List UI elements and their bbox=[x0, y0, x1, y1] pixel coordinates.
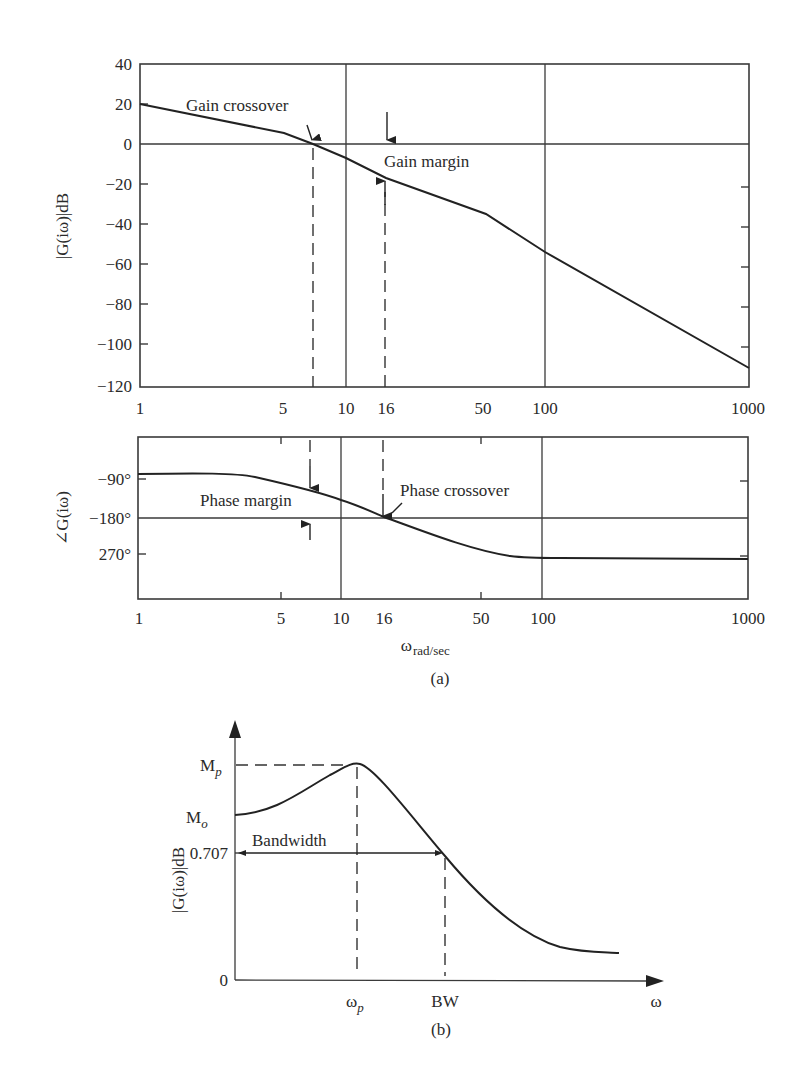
phase-xtick-50: 50 bbox=[473, 609, 490, 628]
mo-label: Mo bbox=[186, 808, 208, 831]
bw-label: BW bbox=[431, 992, 459, 1011]
gain-margin-label: Gain margin bbox=[384, 152, 470, 171]
gain-ytick-m60: −60 bbox=[105, 255, 132, 274]
gain-ytick-m40: −40 bbox=[105, 215, 132, 234]
phase-ytick-270: 270° bbox=[99, 545, 131, 564]
phase-xlabel: ω bbox=[401, 636, 412, 655]
phase-plot: −90° −180° 270° ∠G(iω) 1 5 10 16 50 100 … bbox=[53, 437, 765, 688]
phase-ytick-m90: −90° bbox=[98, 470, 131, 489]
gain-crossover-arrow-icon bbox=[307, 125, 312, 140]
gain-ytick-m80: −80 bbox=[105, 295, 132, 314]
gain-ytick-m20: −20 bbox=[105, 175, 132, 194]
gain-xtick-10: 10 bbox=[338, 399, 355, 418]
phase-xtick-5: 5 bbox=[277, 609, 286, 628]
gain-ylabel: |G(iω)|dB bbox=[53, 193, 72, 259]
gain-ytick-m120: −120 bbox=[97, 377, 132, 396]
gain-ytick-0: 0 bbox=[124, 135, 133, 154]
phase-xtick-10: 10 bbox=[333, 609, 350, 628]
gain-xtick-1000: 1000 bbox=[731, 399, 765, 418]
phase-crossover-label: Phase crossover bbox=[400, 481, 509, 500]
response-plot: Mp Mo 0.707 0 Bandwidth |G(iω)|dB ωp BW … bbox=[169, 720, 664, 1039]
response-ylabel: |G(iω)|dB bbox=[169, 847, 188, 913]
phase-ylabel: ∠G(iω) bbox=[53, 491, 72, 545]
phase-margin-label: Phase margin bbox=[200, 491, 292, 510]
gain-plot: 40 20 0 −20 −40 −60 −80 −100 −120 |G(iω)… bbox=[53, 55, 765, 418]
figure-canvas: 40 20 0 −20 −40 −60 −80 −100 −120 |G(iω)… bbox=[0, 0, 803, 1081]
phase-ytick-m180: −180° bbox=[89, 509, 131, 528]
gain-xtick-100: 100 bbox=[532, 399, 558, 418]
phase-xtick-16: 16 bbox=[376, 609, 393, 628]
response-x-axis bbox=[235, 980, 648, 981]
gain-xtick-1: 1 bbox=[136, 399, 145, 418]
gain-crossover-label: Gain crossover bbox=[186, 96, 289, 115]
x-axis-arrow-icon bbox=[646, 975, 664, 987]
gain-xtick-50: 50 bbox=[475, 399, 492, 418]
gain-xtick-16: 16 bbox=[378, 399, 395, 418]
phase-xtick-1: 1 bbox=[135, 609, 144, 628]
panel-b-caption: (b) bbox=[431, 1020, 451, 1039]
y-axis-arrow-icon bbox=[229, 720, 241, 738]
gain-xtick-5: 5 bbox=[279, 399, 288, 418]
gain-ytick-20: 20 bbox=[115, 95, 132, 114]
mp-label: Mp bbox=[200, 756, 222, 779]
phase-crossover-pointer-icon bbox=[392, 503, 402, 513]
panel-a-caption: (a) bbox=[431, 669, 450, 688]
response-curve bbox=[235, 764, 619, 953]
y-0707-label: 0.707 bbox=[190, 844, 229, 863]
omega-label: ω bbox=[650, 992, 661, 1011]
bandwidth-left-arrow-icon bbox=[238, 850, 246, 856]
gain-ytick-m100: −100 bbox=[97, 335, 132, 354]
y-zero-label: 0 bbox=[220, 971, 229, 990]
phase-xtick-1000: 1000 bbox=[731, 609, 765, 628]
gain-y-ticks bbox=[140, 104, 749, 347]
wp-label: ωp bbox=[346, 992, 364, 1015]
phase-xtick-100: 100 bbox=[530, 609, 556, 628]
gain-ytick-40: 40 bbox=[115, 55, 132, 74]
phase-xlabel-sub: rad/sec bbox=[413, 643, 450, 658]
bandwidth-label: Bandwidth bbox=[252, 831, 327, 850]
